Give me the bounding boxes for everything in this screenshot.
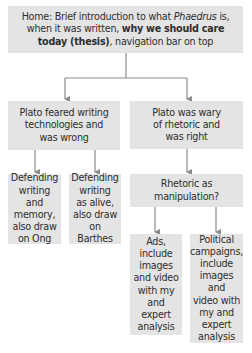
root-text-italic: Phaedrus [174, 11, 217, 22]
root-line-1: Home: Brief introduction to what Phaedru… [22, 11, 230, 23]
node-text: include [190, 258, 243, 270]
node-text: manipulation? [154, 191, 219, 203]
node-defending-writing-alive: Defending writing as alive, also draw on… [69, 174, 121, 244]
node-ads: Ads, include images and video with my an… [130, 234, 182, 335]
node-text: of rhetoric and [152, 119, 221, 131]
root-line-3: today (thesis), navigation bar on top [22, 36, 230, 48]
node-text: Defending [71, 172, 119, 184]
node-text: campaigns, [190, 246, 243, 258]
node-defending-writing-memory: Defending writing and memory, also draw … [8, 174, 61, 244]
node-text: Plato was wary [152, 107, 221, 119]
node-text: and video [132, 272, 180, 284]
node-text: memory, [10, 209, 59, 221]
node-text: was wrong [20, 132, 109, 144]
node-text: video with [190, 295, 243, 307]
node-text: writing [71, 185, 119, 197]
node-text: as alive, [71, 197, 119, 209]
root-line-2: when it was written, why we should care [22, 23, 230, 35]
node-rhetoric-manipulation: Rhetoric as manipulation? [130, 174, 243, 207]
node-text: writing and [10, 185, 59, 209]
node-plato-wary-rhetoric: Plato was wary of rhetoric and was right [130, 101, 243, 149]
node-text: expert [190, 319, 243, 331]
node-text: analysis [132, 321, 180, 333]
node-text: on Barthes [71, 221, 119, 245]
node-text: on Ong [10, 233, 59, 245]
node-plato-feared-writing: Plato feared writing technologies and wa… [8, 101, 120, 150]
root-text: when it was written, [27, 23, 122, 34]
node-text: images [132, 260, 180, 272]
root-text: Home: Brief introduction to what [22, 11, 174, 22]
node-text: also draw [10, 221, 59, 233]
root-node-home: Home: Brief introduction to what Phaedru… [8, 6, 243, 53]
root-text-bold: why we should care [122, 23, 224, 34]
node-text: Political [190, 234, 243, 246]
node-text: analysis [190, 331, 243, 343]
node-text: images and [190, 270, 243, 294]
root-text: , navigation bar on top [109, 36, 213, 47]
node-text: with my [132, 285, 180, 297]
root-text-bold: today (thesis) [38, 36, 110, 47]
node-text: Ads, [132, 236, 180, 248]
node-text: and expert [132, 297, 180, 321]
node-text: was right [152, 131, 221, 143]
node-text: Plato feared writing [20, 107, 109, 119]
node-text: my and [190, 307, 243, 319]
node-text: technologies and [20, 119, 109, 131]
node-text: Defending [10, 172, 59, 184]
root-text: is, [217, 11, 230, 22]
node-text: also draw [71, 209, 119, 221]
node-text: Rhetoric as [154, 178, 219, 190]
node-political-campaigns: Political campaigns, include images and … [190, 234, 243, 343]
node-text: include [132, 248, 180, 260]
